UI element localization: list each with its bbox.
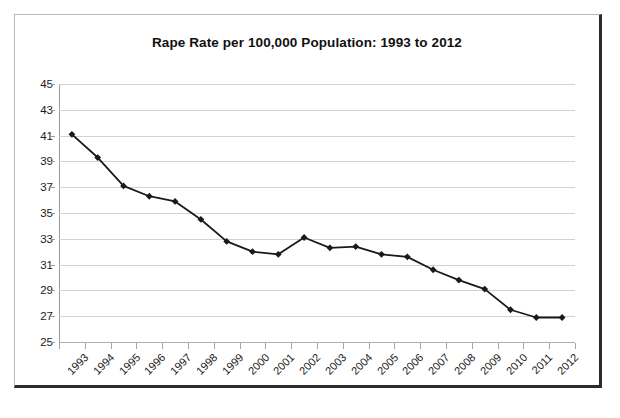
x-tick-label-2007: 2007	[426, 351, 452, 377]
x-tickmark-9	[291, 343, 292, 349]
x-tick-label-2006: 2006	[400, 351, 426, 377]
x-tick-label-2008: 2008	[452, 351, 478, 377]
x-tick-label-2010: 2010	[503, 351, 529, 377]
chart-title: Rape Rate per 100,000 Population: 1993 t…	[15, 35, 599, 50]
line-series-rape-rate	[59, 84, 575, 342]
x-tickmark-0	[59, 343, 60, 349]
y-tick-label-33: 33	[27, 233, 53, 245]
x-tickmark-3	[136, 343, 137, 349]
x-tickmark-15	[446, 343, 447, 349]
y-tickmark-39	[51, 161, 55, 162]
x-tickmark-1	[85, 343, 86, 349]
y-tickmark-31	[51, 265, 55, 266]
x-axis-ticks	[59, 343, 575, 350]
x-tickmark-14	[420, 343, 421, 349]
y-tick-label-43: 43	[27, 104, 53, 116]
x-tick-label-1995: 1995	[116, 351, 142, 377]
x-tick-label-1996: 1996	[142, 351, 168, 377]
y-tick-label-37: 37	[27, 181, 53, 193]
chart-figure-frame: Rape Rate per 100,000 Population: 1993 t…	[14, 14, 602, 388]
y-tick-label-39: 39	[27, 155, 53, 167]
x-tick-label-2000: 2000	[245, 351, 271, 377]
x-tickmark-16	[472, 343, 473, 349]
x-tickmark-18	[523, 343, 524, 349]
x-tick-label-2004: 2004	[348, 351, 374, 377]
y-tick-label-45: 45	[27, 78, 53, 90]
y-tickmark-27	[51, 316, 55, 317]
data-point-2004	[352, 243, 359, 250]
data-point-2000	[249, 248, 256, 255]
plot-area	[59, 84, 575, 342]
x-tick-label-2001: 2001	[271, 351, 297, 377]
x-tick-label-1997: 1997	[168, 351, 194, 377]
x-tickmark-2	[111, 343, 112, 349]
series-line	[72, 134, 562, 317]
x-tick-label-2009: 2009	[477, 351, 503, 377]
x-tickmark-17	[498, 343, 499, 349]
data-point-2005	[378, 251, 385, 258]
y-tickmark-37	[51, 187, 55, 188]
y-tick-label-31: 31	[27, 259, 53, 271]
y-tickmark-29	[51, 290, 55, 291]
y-tick-label-29: 29	[27, 284, 53, 296]
x-tickmark-13	[394, 343, 395, 349]
x-tick-label-2003: 2003	[323, 351, 349, 377]
data-point-2011	[533, 314, 540, 321]
x-tick-label-2012: 2012	[555, 351, 581, 377]
y-tickmark-33	[51, 239, 55, 240]
data-point-2012	[559, 314, 566, 321]
x-tickmark-10	[317, 343, 318, 349]
data-point-2003	[327, 244, 334, 251]
y-axis-labels: 4543413937353331292725	[23, 84, 53, 342]
x-tickmark-12	[369, 343, 370, 349]
y-tick-label-25: 25	[27, 336, 53, 348]
x-tickmark-20	[575, 343, 576, 349]
x-tickmark-7	[240, 343, 241, 349]
data-point-1996	[146, 193, 153, 200]
y-tick-label-27: 27	[27, 310, 53, 322]
y-tickmark-35	[51, 213, 55, 214]
x-tick-label-1998: 1998	[194, 351, 220, 377]
y-tick-label-41: 41	[27, 130, 53, 142]
x-tickmark-19	[549, 343, 550, 349]
x-tick-label-2002: 2002	[297, 351, 323, 377]
x-tick-label-2011: 2011	[530, 351, 555, 376]
y-tickmark-41	[51, 136, 55, 137]
y-tickmark-45	[51, 84, 55, 85]
x-tickmark-6	[214, 343, 215, 349]
y-tickmark-25	[51, 342, 55, 343]
x-tickmark-5	[188, 343, 189, 349]
x-tickmark-11	[343, 343, 344, 349]
x-tick-label-1993: 1993	[65, 351, 91, 377]
y-tickmark-43	[51, 110, 55, 111]
data-point-2008	[456, 277, 463, 284]
y-tick-label-35: 35	[27, 207, 53, 219]
x-tick-label-2005: 2005	[374, 351, 400, 377]
x-tick-label-1994: 1994	[90, 351, 116, 377]
x-tickmark-8	[265, 343, 266, 349]
data-point-2007	[430, 266, 437, 273]
x-tick-label-1999: 1999	[219, 351, 245, 377]
x-axis-labels: 1993199419951996199719981999200020012002…	[59, 351, 575, 391]
data-point-2006	[404, 253, 411, 260]
x-tickmark-4	[162, 343, 163, 349]
